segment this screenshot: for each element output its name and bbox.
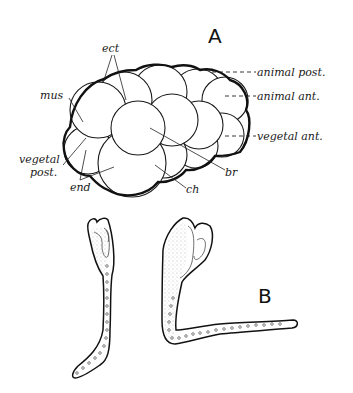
larva-right	[162, 218, 297, 344]
label-animal-ant: animal ant.	[257, 90, 320, 103]
label-ch: ch	[186, 183, 199, 196]
embryo-figure: A ect mus vegetal post. end ch br animal…	[0, 0, 353, 393]
label-vegetal-post-1: vegetal	[19, 153, 60, 166]
cell-front-1-br	[111, 101, 165, 155]
larva-left	[73, 218, 114, 378]
panel-a-label: A	[208, 24, 222, 48]
label-ect: ect	[102, 42, 120, 55]
label-mus: mus	[40, 89, 64, 102]
label-br: br	[225, 166, 238, 179]
label-vegetal-post-2: post.	[30, 166, 57, 179]
panel-a-embryo	[63, 65, 249, 197]
panel-b-label: B	[258, 284, 272, 308]
label-animal-post: animal post.	[257, 66, 325, 79]
label-end: end	[70, 181, 91, 194]
label-vegetal-ant: vegetal ant.	[257, 130, 323, 143]
